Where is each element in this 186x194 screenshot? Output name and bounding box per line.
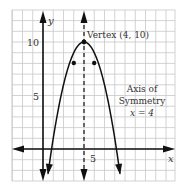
x-axis-label: x bbox=[168, 153, 174, 164]
vertex-label: Vertex (4, 10) bbox=[86, 30, 149, 40]
y-axis-label: y bbox=[47, 15, 54, 26]
axis-label-line2: Symmetry bbox=[119, 96, 167, 106]
tick-y-10: 10 bbox=[27, 37, 39, 48]
parabola-right-arrow-icon bbox=[115, 163, 122, 174]
parabola-left-arrow-icon bbox=[46, 163, 53, 174]
x-axis-left-arrow-icon bbox=[12, 146, 24, 153]
tick-x-5: 5 bbox=[90, 153, 96, 164]
x-axis bbox=[12, 146, 175, 153]
point-3-9 bbox=[72, 61, 76, 65]
axis-label-line1: Axis of bbox=[126, 84, 158, 94]
axis-label-line3: x = 4 bbox=[130, 108, 154, 118]
y-axis-down-arrow-icon bbox=[40, 169, 47, 181]
x-axis-right-arrow-icon bbox=[163, 146, 175, 153]
tick-y-5: 5 bbox=[33, 91, 39, 102]
parabola-chart: y x 10 5 5 Vertex (4, 10) Axis of Symmet… bbox=[0, 0, 186, 194]
symmetry-down-arrow-icon bbox=[81, 169, 88, 181]
y-axis bbox=[40, 11, 47, 181]
symmetry-up-arrow-icon bbox=[81, 11, 88, 23]
y-axis-up-arrow-icon bbox=[40, 11, 47, 23]
point-5-9 bbox=[92, 61, 96, 65]
vertex-point bbox=[82, 40, 87, 45]
